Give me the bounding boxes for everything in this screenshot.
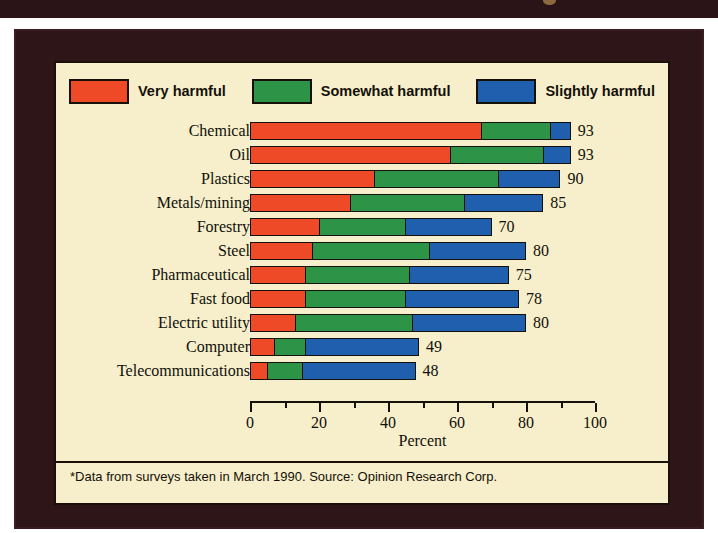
legend-label-somewhat-harmful: Somewhat harmful [321,83,451,99]
category-label: Steel [218,239,250,263]
x-axis-major-tick [388,403,390,412]
x-axis-title: Percent [250,432,595,450]
x-axis-minor-tick [354,403,356,408]
bar-value-label: 70 [499,215,515,239]
x-axis-tick-label: 40 [380,414,396,432]
plot-area: Chemical93Oil93Plastics90Metals/mining85… [56,115,668,445]
category-label: Chemical [189,119,250,143]
bar-row: Fast food78 [56,287,668,311]
x-axis-major-tick [457,403,459,412]
stacked-bar [250,290,519,308]
x-axis-minor-tick [492,403,494,408]
bar-segment-slightly-harmful [409,266,509,284]
bar-value-label: 85 [550,191,566,215]
stacked-bar [250,362,416,380]
category-label: Forestry [197,215,250,239]
category-label: Pharmaceutical [151,263,250,287]
category-label: Plastics [201,167,250,191]
blue-swatch-icon [476,79,536,104]
legend-item-very-harmful: Very harmful [69,79,226,104]
bar-segment-very-harmful [250,266,305,284]
bar-value-label: 78 [526,287,542,311]
green-swatch-icon [252,79,312,104]
bar-segment-very-harmful [250,194,350,212]
x-axis-tick-label: 20 [311,414,327,432]
bar-row: Computer49 [56,335,668,359]
bar-segment-slightly-harmful [498,170,560,188]
chart-card: Very harmful Somewhat harmful Slightly h… [54,61,670,505]
x-axis-major-tick [526,403,528,412]
bar-row: Steel80 [56,239,668,263]
bar-value-label: 80 [533,239,549,263]
bar-segment-slightly-harmful [550,122,571,140]
stacked-bar [250,194,543,212]
red-swatch-icon [69,79,129,104]
stacked-bar [250,170,560,188]
bar-segment-slightly-harmful [429,242,526,260]
bar-rows: Chemical93Oil93Plastics90Metals/mining85… [56,119,668,383]
bar-segment-somewhat-harmful [312,242,429,260]
bar-segment-somewhat-harmful [374,170,498,188]
stacked-bar [250,122,571,140]
x-axis-major-tick [319,403,321,412]
stacked-bar [250,242,526,260]
stacked-bar [250,314,526,332]
bar-value-label: 93 [578,119,594,143]
bar-segment-somewhat-harmful [267,362,302,380]
bar-row: Plastics90 [56,167,668,191]
footnote-text: *Data from surveys taken in March 1990. … [70,469,660,484]
legend-item-somewhat-harmful: Somewhat harmful [252,79,451,104]
bar-segment-slightly-harmful [302,362,416,380]
bar-segment-very-harmful [250,242,312,260]
bar-segment-slightly-harmful [543,146,571,164]
top-banner-strip [0,0,718,18]
legend-label-slightly-harmful: Slightly harmful [545,83,655,99]
bar-segment-slightly-harmful [405,290,519,308]
legend-label-very-harmful: Very harmful [138,83,226,99]
footnote-divider [56,461,668,463]
bar-segment-very-harmful [250,290,305,308]
bar-value-label: 80 [533,311,549,335]
chart-panel: Very harmful Somewhat harmful Slightly h… [14,29,704,529]
bar-segment-slightly-harmful [405,218,491,236]
bar-segment-very-harmful [250,122,481,140]
legend-item-slightly-harmful: Slightly harmful [476,79,655,104]
bar-row: Chemical93 [56,119,668,143]
category-label: Oil [230,143,250,167]
bar-segment-slightly-harmful [464,194,543,212]
bar-segment-somewhat-harmful [305,266,409,284]
bar-row: Pharmaceutical75 [56,263,668,287]
stacked-bar [250,338,419,356]
category-label: Telecommunications [117,359,250,383]
bar-row: Forestry70 [56,215,668,239]
x-axis-minor-tick [561,403,563,408]
x-axis-tick-label: 100 [583,414,607,432]
x-axis-major-tick [595,403,597,412]
bar-segment-somewhat-harmful [319,218,405,236]
chart-legend: Very harmful Somewhat harmful Slightly h… [56,71,668,111]
x-axis-tick-label: 60 [449,414,465,432]
bar-segment-slightly-harmful [305,338,419,356]
stacked-bar [250,266,509,284]
banner-dot-icon [543,0,556,5]
stacked-bar [250,218,492,236]
figure-page: Very harmful Somewhat harmful Slightly h… [0,0,718,533]
bar-segment-slightly-harmful [412,314,526,332]
bar-segment-very-harmful [250,314,295,332]
category-label: Electric utility [158,311,250,335]
bar-segment-somewhat-harmful [350,194,464,212]
bar-segment-very-harmful [250,362,267,380]
category-label: Metals/mining [157,191,250,215]
bar-segment-somewhat-harmful [295,314,412,332]
bar-segment-very-harmful [250,146,450,164]
x-axis-tick-label: 80 [518,414,534,432]
bar-value-label: 75 [516,263,532,287]
bar-value-label: 48 [423,359,439,383]
bar-row: Metals/mining85 [56,191,668,215]
x-axis-major-tick [250,403,252,412]
x-axis-tick-label: 0 [246,414,254,432]
x-axis-minor-tick [423,403,425,408]
bar-segment-very-harmful [250,218,319,236]
bar-segment-somewhat-harmful [305,290,405,308]
bar-segment-very-harmful [250,338,274,356]
